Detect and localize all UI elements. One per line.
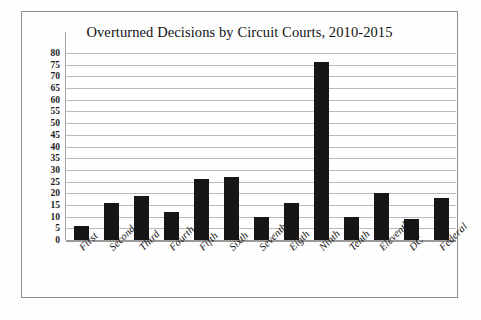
gridline <box>66 147 456 148</box>
y-axis-tick-label: 55 <box>51 106 61 116</box>
gridline <box>66 158 456 159</box>
y-axis-tick-label: 80 <box>51 48 61 58</box>
plot-area: 05101520253035404550556065707580FirstSec… <box>66 53 456 240</box>
gridline <box>66 205 456 206</box>
y-axis-tick-label: 5 <box>55 223 60 233</box>
bar <box>374 193 389 240</box>
bar <box>194 179 209 240</box>
gridline <box>66 170 456 171</box>
bar <box>134 196 149 240</box>
y-axis-tick-label: 20 <box>51 188 61 198</box>
y-axis-tick-label: 60 <box>51 95 61 105</box>
y-axis-tick-label: 35 <box>51 153 61 163</box>
gridline <box>66 88 456 89</box>
y-axis-tick-label: 45 <box>51 130 61 140</box>
chart-title: Overturned Decisions by Circuit Courts, … <box>22 24 457 41</box>
y-axis-tick-label: 25 <box>51 177 61 187</box>
y-axis-tick-label: 75 <box>51 60 61 70</box>
y-axis-tick-label: 70 <box>51 71 61 81</box>
gridline <box>66 76 456 77</box>
gridline <box>66 182 456 183</box>
gridline <box>66 135 456 136</box>
chart-frame: Overturned Decisions by Circuit Courts, … <box>21 11 458 298</box>
gridline <box>66 65 456 66</box>
gridline <box>66 53 456 54</box>
gridline <box>66 193 456 194</box>
y-axis-tick-label: 10 <box>51 212 61 222</box>
gridline <box>66 123 456 124</box>
y-axis-tick-label: 0 <box>55 235 60 245</box>
y-axis-tick-label: 65 <box>51 83 61 93</box>
gridline <box>66 100 456 101</box>
bar <box>224 177 239 240</box>
page-background: Overturned Decisions by Circuit Courts, … <box>0 0 481 320</box>
y-axis-tick-label: 40 <box>51 142 61 152</box>
bar <box>314 62 329 240</box>
y-axis-tick-label: 50 <box>51 118 61 128</box>
y-axis-tick-label: 15 <box>51 200 61 210</box>
gridline <box>66 111 456 112</box>
y-axis-tick-label: 30 <box>51 165 61 175</box>
bar <box>434 198 449 240</box>
